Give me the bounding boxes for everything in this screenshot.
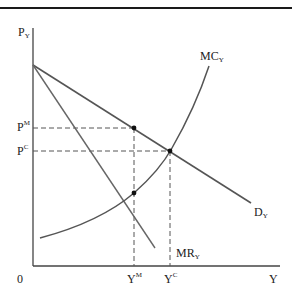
y-axis-label: PY (18, 26, 30, 38)
mc-curve (40, 66, 209, 238)
mr-label: MRY (176, 247, 200, 259)
ym-label: YM (127, 273, 142, 285)
pc-label: PC (17, 145, 28, 157)
competitive-point (168, 149, 173, 154)
yc-label: YC (164, 273, 177, 285)
pm-label: PM (17, 121, 30, 133)
x-axis-label: Y (269, 273, 278, 285)
origin-label: 0 (17, 273, 23, 285)
demand-curve (33, 65, 251, 203)
diagram-canvas (0, 0, 292, 287)
monopoly-point (132, 126, 137, 131)
demand-label: DY (254, 206, 268, 218)
mc-label: MCY (200, 50, 224, 62)
mr-mc-point (132, 191, 137, 196)
mr-curve (33, 65, 155, 248)
